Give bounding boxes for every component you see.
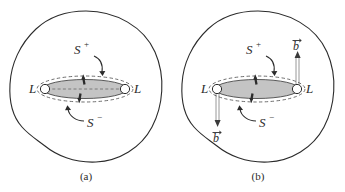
svg-text:b: b	[213, 131, 219, 145]
b-vector-up-ribbon	[295, 51, 301, 85]
caption-a: (a)	[80, 170, 93, 183]
leader-line-s-plus	[94, 56, 105, 76]
boundary-circle-left	[40, 84, 49, 93]
svg-text:S: S	[74, 42, 81, 57]
leader-line-s-plus-b	[266, 56, 277, 76]
boundary-circle-right-b	[292, 84, 301, 93]
svg-text:b: b	[293, 39, 299, 53]
label-b-vector-left: b	[213, 131, 222, 145]
two-panel-surface-figure: L L S + S − (a)	[0, 0, 345, 192]
label-left-boundary-b: L	[200, 81, 208, 96]
label-s-plus-b: S +	[246, 39, 261, 57]
label-s-plus-a: S +	[74, 39, 89, 57]
label-s-minus-b: S −	[259, 112, 274, 130]
svg-text:−: −	[97, 112, 102, 122]
b-vector-down-ribbon	[215, 93, 221, 127]
svg-text:+: +	[256, 39, 261, 49]
boundary-circle-right	[120, 84, 129, 93]
svg-text:S: S	[87, 115, 94, 130]
label-b-vector-right: b	[293, 39, 302, 53]
svg-text:S: S	[246, 42, 253, 57]
boundary-circle-left-b	[212, 84, 221, 93]
svg-text:S: S	[259, 115, 266, 130]
panel-b: L L S + S − b b (b)	[182, 11, 334, 183]
label-left-boundary-a: L	[28, 81, 36, 96]
leader-line-s-minus-b	[237, 105, 256, 121]
leader-line-s-minus	[65, 105, 84, 121]
label-right-boundary-a: L	[133, 81, 141, 96]
label-right-boundary-b: L	[305, 81, 313, 96]
label-s-minus-a: S −	[87, 112, 102, 130]
svg-text:−: −	[269, 112, 274, 122]
panel-a: L L S + S − (a)	[10, 11, 162, 183]
svg-text:+: +	[84, 39, 89, 49]
caption-b: (b)	[252, 170, 265, 183]
